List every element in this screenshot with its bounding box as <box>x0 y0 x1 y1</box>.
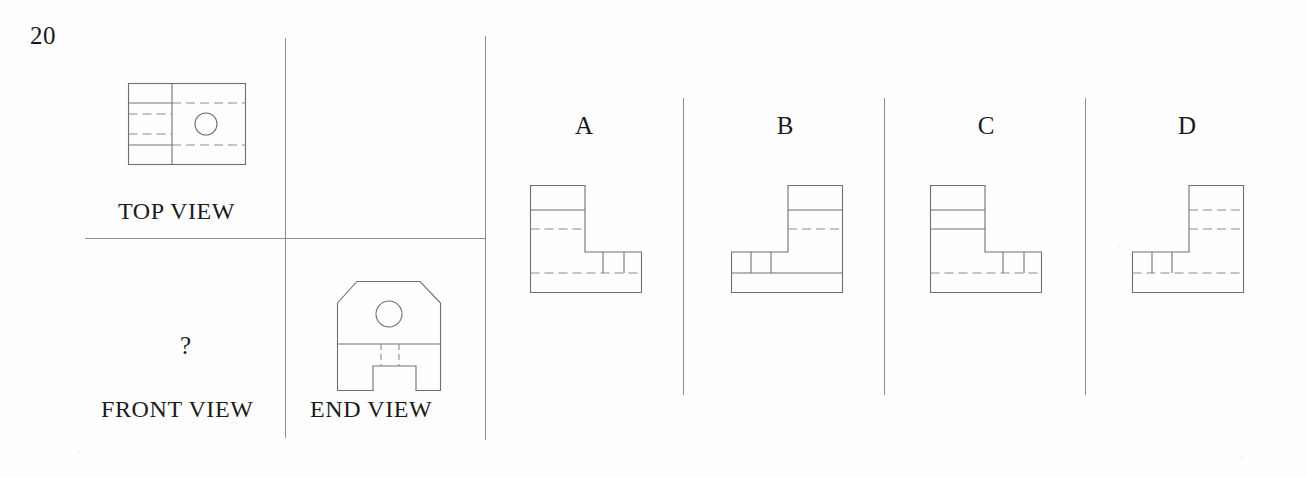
scan-speck <box>640 455 642 457</box>
grid-vertical-divider-center <box>285 38 286 438</box>
end-view-drawing <box>337 281 441 391</box>
front-view-label: FRONT VIEW <box>101 396 253 423</box>
missing-view-question-mark: ? <box>180 332 191 360</box>
worksheet-page: 20 TOP VIEW ? FRONT VIEW <box>0 0 1306 477</box>
grid-vertical-divider-right <box>485 36 486 440</box>
option-separator-c-d <box>1085 98 1086 395</box>
option-separator-b-c <box>884 98 885 395</box>
option-letter-a: A <box>564 112 604 140</box>
option-letter-d: D <box>1167 112 1207 140</box>
option-letter-b: B <box>765 112 805 140</box>
top-view-drawing <box>128 83 246 165</box>
option-d-drawing[interactable] <box>1132 185 1244 293</box>
option-a-drawing[interactable] <box>530 185 642 293</box>
scan-speck <box>1240 456 1242 458</box>
option-b-drawing[interactable] <box>731 185 843 293</box>
end-view-label: END VIEW <box>310 396 432 423</box>
option-letter-c: C <box>966 112 1006 140</box>
option-separator-a-b <box>683 98 684 395</box>
scan-speck <box>78 451 80 453</box>
scan-speck <box>1118 245 1120 247</box>
option-c-drawing[interactable] <box>930 185 1042 293</box>
top-view-label: TOP VIEW <box>118 198 235 225</box>
question-number: 20 <box>30 22 56 50</box>
